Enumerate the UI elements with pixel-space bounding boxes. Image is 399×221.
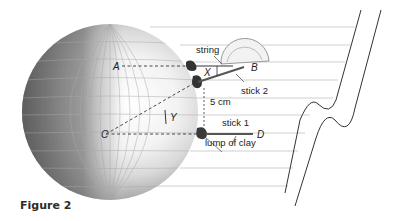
angle-x: X — [203, 67, 211, 78]
distance-label: 5 cm — [210, 96, 231, 107]
break-symbol — [285, 10, 381, 206]
figure-caption: Figure 2 — [20, 199, 71, 212]
protractor — [221, 38, 269, 64]
string-label: string — [196, 44, 219, 55]
point-a: A — [112, 61, 120, 72]
stick-2-label: stick 2 — [241, 85, 268, 96]
point-c: C — [101, 129, 109, 140]
stick-1-label: stick 1 — [222, 117, 249, 128]
point-d: D — [257, 129, 264, 140]
clay-label: lump of clay — [205, 137, 256, 148]
point-b: B — [251, 62, 258, 73]
diagram-figure: string stick 2 5 cm stick 1 lump of clay… — [0, 0, 399, 221]
